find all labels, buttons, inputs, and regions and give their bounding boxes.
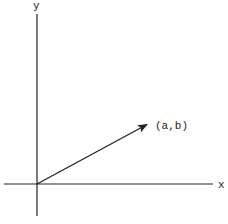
- vector-diagram: y x (a,b): [0, 0, 228, 224]
- y-axis-label: y: [33, 0, 40, 12]
- diagram-svg: y x (a,b): [0, 0, 228, 224]
- vector-arrow: [37, 125, 147, 185]
- vector-label: (a,b): [155, 120, 188, 132]
- x-axis-label: x: [218, 179, 225, 191]
